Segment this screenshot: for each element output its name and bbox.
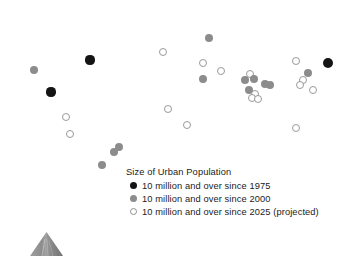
open-circle-icon xyxy=(130,208,137,215)
filled-gray-circle-icon xyxy=(130,195,137,202)
world-map-landmasses xyxy=(0,0,359,257)
legend-item-label: 10 million and over since 2025 (projecte… xyxy=(142,207,319,217)
city-marker-mexico-city xyxy=(46,87,55,96)
legend-item-label: 10 million and over since 1975 xyxy=(142,181,271,191)
urban-population-map-figure: Size of Urban Population 10 million and … xyxy=(0,0,359,257)
filled-black-circle-icon xyxy=(130,182,137,189)
legend: Size of Urban Population 10 million and … xyxy=(126,166,354,218)
pyramid-icon xyxy=(29,231,64,257)
legend-item-label: 10 million and over since 2000 xyxy=(142,194,271,204)
legend-items: 10 million and over since 197510 million… xyxy=(126,179,354,218)
legend-item-0: 10 million and over since 1975 xyxy=(126,179,354,192)
legend-item-2: 10 million and over since 2025 (projecte… xyxy=(126,205,354,218)
legend-title: Size of Urban Population xyxy=(126,166,354,179)
city-marker-new-york xyxy=(85,55,94,64)
world-map xyxy=(0,0,359,257)
legend-item-1: 10 million and over since 2000 xyxy=(126,192,354,205)
city-marker-tokyo xyxy=(323,58,333,68)
land-fill xyxy=(0,0,359,257)
